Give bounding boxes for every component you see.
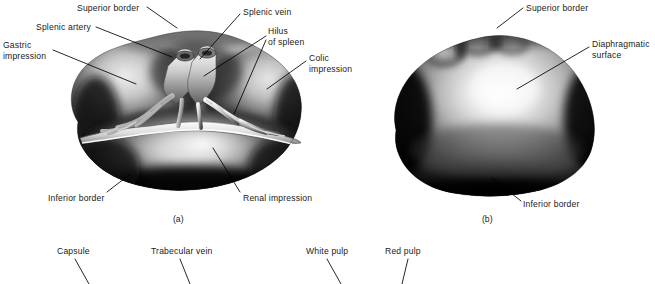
label-renal-impression: Renal impression bbox=[243, 193, 312, 204]
leader-hilus-1 bbox=[204, 36, 266, 76]
leader-diaphragmatic-surface bbox=[517, 47, 589, 89]
label-splenic-vein: Splenic vein bbox=[243, 7, 291, 18]
label-inferior-border-b: Inferior border bbox=[523, 199, 580, 210]
leader-trabecular-vein bbox=[180, 259, 190, 284]
label-white-pulp: White pulp bbox=[306, 246, 348, 257]
leader-lines bbox=[0, 0, 655, 284]
leader-superior-border-a bbox=[147, 7, 177, 28]
label-colic-impression: Colic impression bbox=[309, 53, 352, 74]
leader-colic-impression bbox=[267, 61, 306, 89]
label-hilus-of-spleen: Hilus of spleen bbox=[268, 26, 304, 47]
leader-renal-impression bbox=[213, 148, 240, 192]
label-trabecular-vein: Trabecular vein bbox=[151, 246, 213, 257]
leader-hilus-2 bbox=[234, 40, 266, 114]
label-capsule: Capsule bbox=[57, 246, 90, 257]
label-red-pulp: Red pulp bbox=[385, 246, 421, 257]
leader-inferior-border-a bbox=[107, 175, 129, 192]
label-superior-border-b: Superior border bbox=[526, 3, 588, 14]
spleen-illustrations bbox=[0, 0, 655, 284]
leader-white-pulp bbox=[327, 259, 341, 284]
label-inferior-border-a: Inferior border bbox=[48, 193, 105, 204]
caption-panel-b: (b) bbox=[482, 214, 493, 224]
caption-panel-a: (a) bbox=[173, 214, 184, 224]
leader-inferior-border-b bbox=[492, 178, 521, 201]
label-gastric-impression: Gastric impression bbox=[3, 40, 46, 61]
leader-splenic-artery-a bbox=[96, 27, 172, 57]
label-splenic-artery: Splenic artery bbox=[36, 22, 91, 33]
label-diaphragmatic-surface: Diaphragmatic surface bbox=[592, 39, 650, 60]
spleen-anatomy-figure: Superior border Splenic artery Gastric i… bbox=[0, 0, 655, 284]
label-superior-border-a: Superior border bbox=[77, 3, 139, 14]
leader-gastric-impression-a bbox=[53, 50, 136, 84]
leader-splenic-vein-a bbox=[200, 14, 240, 59]
leader-capsule bbox=[75, 259, 89, 284]
leader-red-pulp bbox=[402, 259, 408, 284]
leader-superior-border-b bbox=[497, 8, 523, 28]
